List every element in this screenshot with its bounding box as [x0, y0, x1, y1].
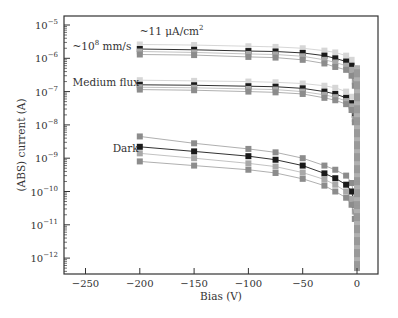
data-marker — [343, 101, 349, 107]
data-marker — [137, 52, 143, 58]
data-marker — [332, 175, 338, 181]
data-marker — [321, 183, 327, 189]
data-marker — [349, 107, 355, 113]
data-marker — [191, 87, 197, 93]
annotation-label: ~108 mm/s — [72, 39, 131, 52]
data-marker — [245, 167, 251, 173]
x-tick-label: −50 — [292, 278, 313, 289]
data-series — [137, 41, 360, 271]
y-axis-label: (ABS) current (A) — [15, 98, 27, 191]
x-tick-label: −100 — [235, 278, 262, 289]
data-marker — [332, 85, 338, 91]
data-marker — [245, 54, 251, 60]
data-marker — [191, 140, 197, 146]
data-marker — [343, 173, 349, 179]
x-tick-label: −200 — [126, 278, 153, 289]
data-marker — [343, 67, 349, 73]
data-marker — [332, 97, 338, 103]
data-marker — [343, 182, 349, 188]
data-marker — [245, 146, 251, 152]
data-marker — [332, 167, 338, 173]
data-marker — [349, 57, 355, 63]
data-marker — [332, 64, 338, 70]
data-marker — [300, 163, 306, 169]
data-marker — [300, 57, 306, 63]
data-marker — [343, 189, 349, 195]
data-marker — [273, 157, 279, 163]
data-marker — [332, 49, 338, 55]
data-marker — [349, 94, 355, 100]
data-marker — [273, 89, 279, 95]
annotation-label: Medium flux — [72, 76, 139, 88]
x-tick-label: −250 — [72, 278, 99, 289]
data-marker — [349, 73, 355, 79]
data-marker — [300, 91, 306, 97]
data-marker — [191, 155, 197, 161]
data-marker — [245, 89, 251, 95]
data-marker — [191, 148, 197, 154]
data-marker — [321, 95, 327, 101]
data-marker — [332, 189, 338, 195]
data-marker — [343, 53, 349, 59]
data-marker — [245, 153, 251, 159]
data-marker — [349, 189, 355, 195]
y-tick-label: 10−11 — [30, 218, 58, 231]
y-tick-label: 10−9 — [35, 151, 58, 164]
y-tick-label: 10−5 — [35, 18, 58, 31]
data-marker — [321, 60, 327, 66]
data-marker — [349, 196, 355, 202]
data-marker — [321, 176, 327, 182]
data-marker — [349, 180, 355, 186]
iv-chart: 10−510−610−710−810−910−1010−1110−12 −250… — [0, 0, 398, 318]
data-marker — [300, 155, 306, 161]
data-marker — [332, 182, 338, 188]
annotation-label: ~11 μA/cm2 — [140, 24, 204, 37]
data-marker — [245, 160, 251, 166]
data-marker — [273, 164, 279, 170]
y-tick-label: 10−7 — [35, 85, 58, 98]
data-marker — [321, 83, 327, 89]
data-marker — [273, 55, 279, 61]
data-marker — [191, 163, 197, 169]
data-marker — [137, 158, 143, 164]
data-marker — [343, 89, 349, 95]
data-marker — [300, 176, 306, 182]
data-marker — [273, 170, 279, 176]
x-tick-label: −150 — [180, 278, 207, 289]
x-tick-label: 0 — [354, 278, 360, 289]
data-marker — [321, 170, 327, 176]
y-tick-label: 10−8 — [35, 118, 58, 131]
data-marker — [273, 149, 279, 155]
data-marker — [300, 170, 306, 176]
x-axis-label: Bias (V) — [200, 290, 242, 302]
series-line — [140, 136, 357, 242]
data-marker — [191, 52, 197, 58]
plot-frame — [64, 16, 378, 274]
y-tick-label: 10−6 — [35, 51, 59, 64]
y-tick-label: 10−10 — [30, 185, 58, 198]
data-marker — [137, 133, 143, 139]
series-line — [140, 55, 357, 149]
y-tick-label: 10−12 — [30, 251, 58, 264]
x-axis: −250−200−150−100−500 — [72, 268, 360, 289]
annotation-label: Dark — [113, 142, 140, 154]
data-marker — [343, 195, 349, 201]
data-marker — [321, 163, 327, 169]
data-marker — [349, 67, 355, 73]
data-marker — [349, 202, 355, 208]
